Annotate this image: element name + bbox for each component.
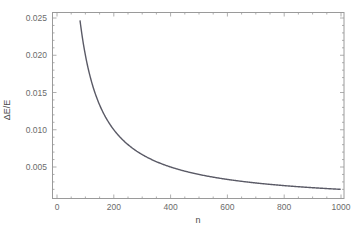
x-axis-label: n (195, 215, 200, 225)
y-axis-label: ΔE/E (2, 100, 12, 121)
x-axis-tick-labels: 02004006008001000 (55, 202, 351, 212)
x-tick-label: 400 (164, 202, 178, 212)
x-tick-label: 1000 (332, 202, 351, 212)
y-axis-ticks (53, 18, 345, 189)
y-tick-label: 0.020 (26, 50, 48, 60)
x-tick-label: 0 (55, 202, 60, 212)
data-curve (80, 20, 341, 189)
y-tick-label: 0.010 (26, 125, 48, 135)
y-tick-label: 0.015 (26, 88, 48, 98)
chart: 02004006008001000 0.0050.0100.0150.0200.… (0, 0, 363, 237)
y-axis-tick-labels: 0.0050.0100.0150.0200.025 (26, 13, 48, 172)
x-tick-label: 800 (277, 202, 291, 212)
y-tick-label: 0.025 (26, 13, 48, 23)
y-tick-label: 0.005 (26, 162, 48, 172)
x-tick-label: 200 (107, 202, 121, 212)
x-tick-label: 600 (220, 202, 234, 212)
plot-frame (53, 13, 345, 199)
